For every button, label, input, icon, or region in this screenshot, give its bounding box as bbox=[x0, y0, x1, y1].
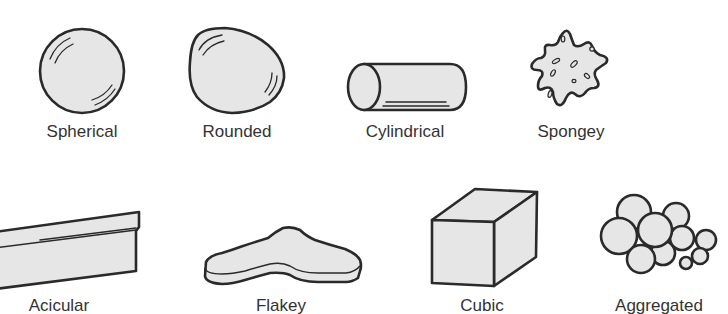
acicular-shape bbox=[0, 212, 139, 289]
particle-shapes-diagram bbox=[0, 0, 728, 314]
spongey-shape bbox=[532, 31, 608, 105]
flakey-shape bbox=[205, 227, 361, 284]
label-cylindrical: Cylindrical bbox=[366, 123, 444, 140]
label-cubic: Cubic bbox=[460, 297, 503, 314]
cubic-shape bbox=[432, 189, 537, 286]
label-acicular: Acicular bbox=[29, 297, 89, 314]
cylindrical-shape bbox=[348, 64, 466, 110]
label-spherical: Spherical bbox=[47, 123, 118, 140]
label-flakey: Flakey bbox=[256, 297, 306, 314]
aggregated-shape bbox=[601, 195, 716, 273]
spherical-shape bbox=[40, 29, 124, 113]
label-rounded: Rounded bbox=[202, 123, 271, 140]
rounded-shape bbox=[190, 28, 284, 113]
label-spongey: Spongey bbox=[537, 123, 604, 140]
label-aggregated: Aggregated bbox=[615, 297, 703, 314]
